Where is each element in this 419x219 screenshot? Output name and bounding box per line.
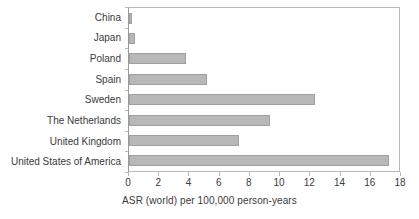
bar-row xyxy=(129,130,399,150)
bar xyxy=(129,135,239,146)
y-axis-label-list: ChinaJapanPolandSpainSwedenThe Netherlan… xyxy=(0,7,126,172)
x-axis-title: ASR (world) per 100,000 person-years xyxy=(0,195,419,207)
bar xyxy=(129,115,270,126)
x-axis-tick-label: 10 xyxy=(274,177,285,189)
x-axis-tick-label: 2 xyxy=(155,177,161,189)
x-axis-tick xyxy=(370,172,371,176)
x-axis-tick-label: 18 xyxy=(394,177,405,189)
x-axis-tick-label: 6 xyxy=(216,177,222,189)
y-axis-tick-label: Spain xyxy=(0,69,126,90)
bar-row xyxy=(129,8,399,28)
x-axis-tick xyxy=(219,172,220,176)
bar xyxy=(129,33,135,44)
y-axis-tick-label: China xyxy=(0,7,126,28)
x-axis-tick-label-list: 024681012141618 xyxy=(128,177,400,191)
bar xyxy=(129,74,207,85)
bar-row xyxy=(129,110,399,130)
y-axis-tick-label: Japan xyxy=(0,28,126,49)
x-axis-tick xyxy=(400,172,401,176)
plot-area xyxy=(128,7,400,172)
y-axis-tick-label: The Netherlands xyxy=(0,110,126,131)
x-axis-tick-label: 16 xyxy=(364,177,375,189)
bar-row xyxy=(129,28,399,48)
x-axis-tick xyxy=(249,172,250,176)
bar-row xyxy=(129,49,399,69)
x-axis-tick-label: 14 xyxy=(334,177,345,189)
bar xyxy=(129,13,132,24)
bars-layer xyxy=(129,8,399,171)
bar-chart: ChinaJapanPolandSpainSwedenThe Netherlan… xyxy=(0,0,419,219)
x-axis-tick-label: 12 xyxy=(304,177,315,189)
x-axis-tick xyxy=(340,172,341,176)
bar-row xyxy=(129,69,399,89)
x-axis-tick-label: 0 xyxy=(125,177,131,189)
y-axis-tick-label: Sweden xyxy=(0,90,126,111)
y-axis-tick-label: United States of America xyxy=(0,151,126,172)
bar xyxy=(129,94,315,105)
x-axis-tick xyxy=(309,172,310,176)
x-axis-tick-label: 4 xyxy=(186,177,192,189)
x-axis-tick xyxy=(128,172,129,176)
bar xyxy=(129,155,389,166)
y-axis-tick-label: Poland xyxy=(0,48,126,69)
x-axis-tick-label: 8 xyxy=(246,177,252,189)
x-axis-tick xyxy=(279,172,280,176)
y-axis-tick-label: United Kingdom xyxy=(0,131,126,152)
x-axis-tick xyxy=(188,172,189,176)
bar-row xyxy=(129,151,399,171)
bar xyxy=(129,53,186,64)
bar-row xyxy=(129,90,399,110)
x-axis-tick xyxy=(158,172,159,176)
